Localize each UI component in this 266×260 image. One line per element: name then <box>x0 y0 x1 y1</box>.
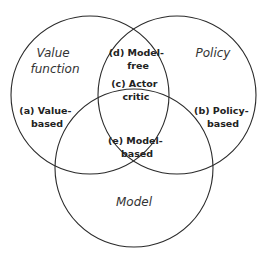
policy-label: Policy <box>196 46 232 60</box>
model-circle <box>55 89 213 247</box>
model-label: Model <box>116 195 153 209</box>
region-a-label: (a) Value- based <box>19 105 74 129</box>
region-b-label: (b) Policy- based <box>194 105 252 129</box>
region-d-label: (d) Model- free <box>109 47 168 71</box>
region-e-label: (e) Model- based <box>108 135 166 159</box>
venn-diagram: Value function Policy Model (a) Value- b… <box>0 0 266 260</box>
value-function-label: Value function <box>30 46 79 76</box>
